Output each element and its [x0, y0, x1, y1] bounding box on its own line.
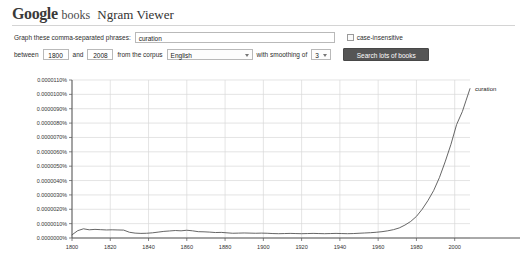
google-logo[interactable]: Google — [12, 5, 58, 23]
svg-text:1840: 1840 — [142, 244, 154, 250]
svg-text:0.0000030%: 0.0000030% — [37, 192, 67, 198]
svg-text:0.0000080%: 0.0000080% — [37, 120, 67, 126]
case-insensitive-control[interactable]: case-insensitive — [347, 34, 403, 41]
search-button[interactable]: Search lots of books — [343, 48, 429, 61]
chart-x-axis: 1800182018401860188019001920194019601980… — [66, 238, 520, 250]
svg-text:1820: 1820 — [104, 244, 116, 250]
svg-text:1860: 1860 — [181, 244, 193, 250]
corpus-select[interactable]: English — [167, 49, 253, 60]
and-label: and — [73, 51, 84, 58]
svg-text:1980: 1980 — [410, 244, 422, 250]
svg-text:0.0000070%: 0.0000070% — [37, 134, 67, 140]
phrases-label: Graph these comma-separated phrases: — [14, 34, 131, 41]
svg-text:2000: 2000 — [448, 244, 460, 250]
smoothing-label: with smoothing of — [257, 51, 308, 58]
svg-text:curation: curation — [475, 86, 496, 92]
svg-text:1960: 1960 — [372, 244, 384, 250]
logo-line: Google books Ngram Viewer — [12, 5, 525, 23]
phrases-input[interactable]: curation — [135, 32, 335, 43]
ngram-chart: 0.0000000%0.0000010%0.0000020%0.0000030%… — [0, 70, 525, 264]
svg-text:1920: 1920 — [295, 244, 307, 250]
between-label: between — [14, 51, 39, 58]
query-form: Graph these comma-separated phrases: cur… — [0, 26, 525, 61]
svg-text:0.0000050%: 0.0000050% — [37, 163, 67, 169]
chart-series — [72, 89, 470, 235]
svg-text:1940: 1940 — [334, 244, 346, 250]
page-title: Ngram Viewer — [97, 7, 174, 23]
case-insensitive-label: case-insensitive — [357, 34, 403, 41]
chart-series-label: curation — [475, 86, 496, 92]
svg-text:0.0000040%: 0.0000040% — [37, 178, 67, 184]
start-year-input[interactable]: 1800 — [43, 49, 69, 60]
chart-canvas: 0.0000000%0.0000010%0.0000020%0.0000030%… — [0, 70, 525, 264]
chart-gridlines — [72, 80, 470, 238]
svg-text:0.0000000%: 0.0000000% — [37, 235, 67, 241]
svg-text:0.0000090%: 0.0000090% — [37, 106, 67, 112]
svg-text:0.0000010%: 0.0000010% — [37, 221, 67, 227]
svg-text:0.0000020%: 0.0000020% — [37, 206, 67, 212]
svg-text:0.0000060%: 0.0000060% — [37, 149, 67, 155]
svg-text:1900: 1900 — [257, 244, 269, 250]
svg-text:1880: 1880 — [219, 244, 231, 250]
chevron-down-icon — [323, 54, 327, 57]
svg-text:0.0000110%: 0.0000110% — [37, 77, 67, 83]
smoothing-select-value: 3 — [315, 52, 319, 59]
smoothing-select[interactable]: 3 — [311, 49, 331, 60]
svg-text:0.0000100%: 0.0000100% — [37, 91, 67, 97]
books-logo[interactable]: books — [62, 8, 91, 23]
options-row: between 1800 and 2008 from the corpus En… — [14, 47, 525, 61]
chart-y-axis: 0.0000000%0.0000010%0.0000020%0.0000030%… — [37, 77, 72, 241]
corpus-label: from the corpus — [117, 51, 162, 58]
corpus-select-value: English — [171, 52, 192, 59]
svg-text:1800: 1800 — [66, 244, 78, 250]
chevron-down-icon — [245, 54, 249, 57]
page-header: Google books Ngram Viewer — [0, 0, 525, 22]
end-year-input[interactable]: 2008 — [87, 49, 113, 60]
phrases-row: Graph these comma-separated phrases: cur… — [14, 30, 525, 44]
case-insensitive-checkbox[interactable] — [347, 34, 354, 41]
